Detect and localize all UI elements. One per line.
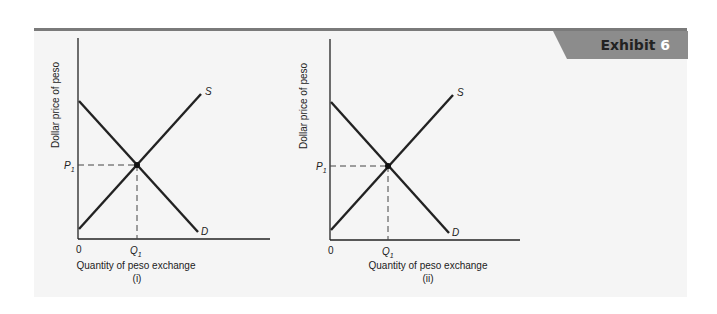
p1-label: P1 — [316, 161, 327, 174]
supply-label: S — [457, 87, 464, 98]
chart-caption: (i) — [133, 273, 142, 284]
demand-label: D — [452, 227, 459, 238]
origin-label: 0 — [76, 244, 82, 255]
q1-label: Q1 — [382, 246, 394, 259]
p1-label: P1 — [64, 160, 75, 173]
supply-curve — [79, 94, 201, 229]
equilibrium-point — [134, 162, 140, 168]
x-axis-label: Quantity of peso exchange — [77, 260, 196, 271]
chart-i: S D P1 Q1 0 Quantity of peso exchange (i… — [50, 38, 270, 284]
supply-label: S — [205, 86, 212, 97]
y-axis-label: Dollar price of peso — [50, 61, 61, 148]
x-axis-label: Quantity of peso exchange — [369, 260, 488, 271]
origin-label: 0 — [328, 245, 334, 256]
chart-caption: (ii) — [422, 273, 433, 284]
q1-label: Q1 — [130, 245, 142, 258]
demand-label: D — [201, 226, 208, 237]
equilibrium-point — [385, 163, 391, 169]
chart-ii: S D P1 Q1 0 Quantity of peso exchange (i… — [298, 39, 520, 284]
charts-canvas: S D P1 Q1 0 Quantity of peso exchange (i… — [0, 0, 717, 314]
y-axis-label: Dollar price of peso — [298, 62, 309, 149]
supply-curve — [331, 95, 453, 230]
